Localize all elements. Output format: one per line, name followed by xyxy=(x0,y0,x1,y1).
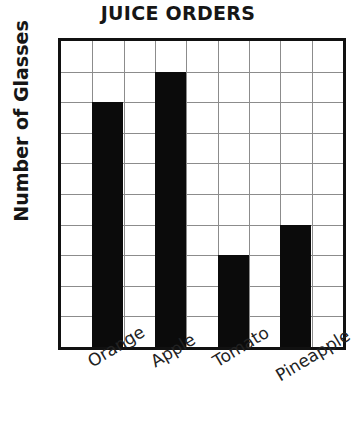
x-tick-label-orange: Orange xyxy=(84,322,148,371)
x-tick-label-tomato: Tomato xyxy=(209,322,272,371)
x-tick-label-pineapple: Pineapple xyxy=(272,325,353,385)
x-tick-label-apple: Apple xyxy=(147,329,199,371)
x-axis-tick-label-group: OrangeAppleTomatoPineapple xyxy=(0,0,356,424)
juice-orders-bar-chart: JUICE ORDERS Number of Glasses 0246810 O… xyxy=(0,0,356,424)
